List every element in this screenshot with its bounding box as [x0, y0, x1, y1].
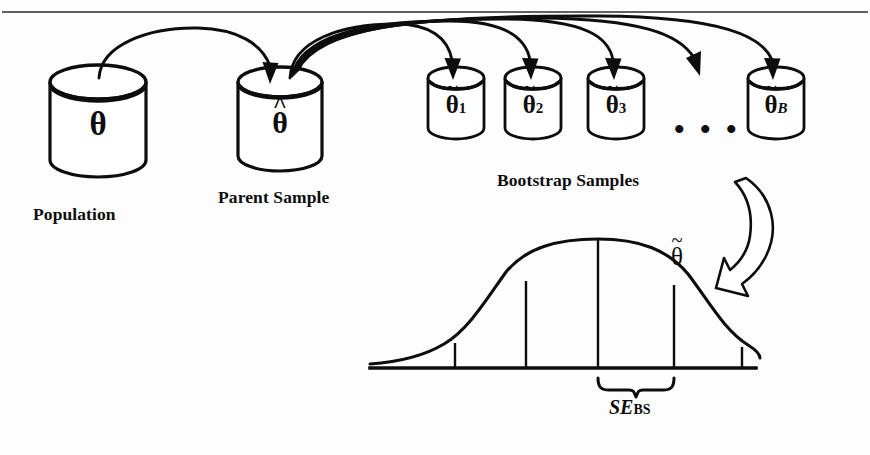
population-symbol: θ — [78, 108, 118, 141]
parent-sample-symbol: ^ θ — [258, 108, 302, 138]
population-label: Population — [33, 204, 116, 225]
bootstrap-symbol-1: ~ θ 1 — [432, 92, 480, 117]
tilde-accent-icon: ~ — [606, 78, 619, 99]
bootstrap-symbol-b: ~ θ B — [750, 92, 802, 117]
tilde-accent-icon: ~ — [523, 78, 536, 99]
parent-sample-label: Parent Sample — [218, 187, 329, 208]
bootstrap-ellipsis: • • • — [674, 112, 741, 146]
hat-accent-icon: ^ — [272, 93, 288, 118]
arrow-parent-to-bootstrap-2 — [292, 21, 539, 80]
bootstrap-samples-label: Bootstrap Samples — [497, 170, 639, 191]
bootstrap-symbol-2: ~ θ 2 — [509, 92, 557, 117]
bootstrap-diagram-figure: θ ^ θ ~ θ 1 ~ θ 2 ~ θ 3 ~ θ B • • • Popu… — [0, 0, 870, 455]
tilde-accent-icon: ~ — [671, 230, 683, 251]
diagram-canvas — [0, 0, 870, 455]
bootstrap-symbol-3: ~ θ 3 — [592, 92, 640, 117]
tilde-accent-icon: ~ — [764, 78, 777, 99]
standard-error-label: SEBS — [609, 396, 651, 419]
sampling-distribution-curve — [370, 239, 760, 368]
distribution-curve-label: ~ θ — [660, 244, 694, 269]
curved-block-arrow — [716, 178, 773, 296]
tilde-accent-icon: ~ — [446, 78, 459, 99]
se-brace — [598, 378, 674, 397]
